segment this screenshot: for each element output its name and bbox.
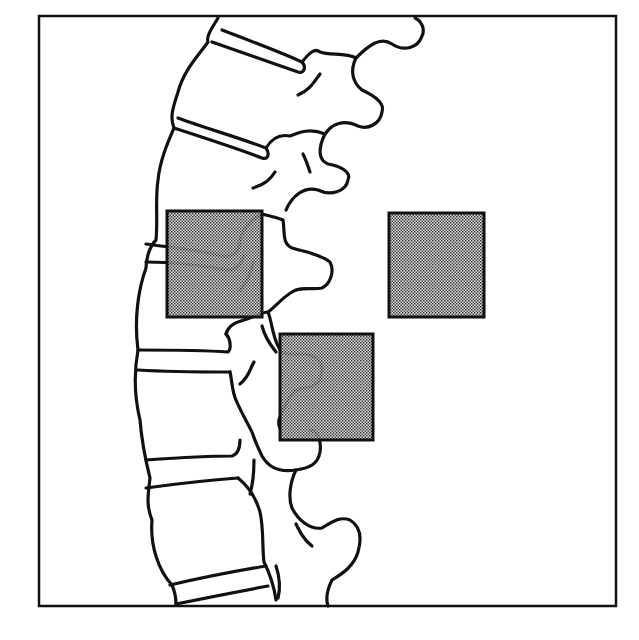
roi-vertebral-upper — [167, 211, 262, 317]
spine-diagram — [0, 0, 639, 640]
facet-line-3 — [253, 172, 275, 188]
facet-line-9 — [276, 566, 279, 598]
posterior-element-5 — [290, 470, 360, 606]
roi-soft-tissue — [389, 213, 484, 317]
posterior-element-1 — [302, 18, 423, 62]
posterior-element-2 — [266, 131, 349, 210]
facet-line-2 — [303, 154, 310, 172]
disc-4-lower — [138, 370, 230, 372]
disc-1 — [212, 30, 304, 72]
facet-line-1 — [298, 74, 320, 95]
disc-6-lower — [176, 586, 268, 604]
disc-5-lower — [146, 478, 238, 488]
disc-5 — [146, 440, 240, 460]
disc-4 — [138, 334, 230, 352]
disc-2 — [174, 118, 268, 158]
roi-group — [167, 211, 484, 440]
figure-frame — [39, 16, 616, 606]
spinous-process-1 — [325, 58, 383, 134]
roi-vertebral-lower — [280, 334, 373, 440]
facet-line-6 — [240, 362, 254, 384]
spine-diagram-svg — [0, 0, 639, 640]
disc-6 — [170, 566, 266, 585]
lower-body — [238, 478, 276, 600]
posterior-element-3 — [262, 214, 332, 312]
